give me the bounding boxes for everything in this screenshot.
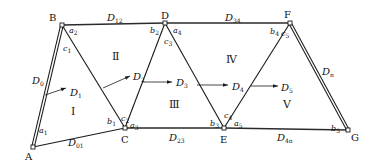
member-EF bbox=[224, 23, 290, 128]
arrow-label-D3: D3 bbox=[175, 77, 188, 89]
node-C bbox=[123, 126, 127, 130]
member-label-D23: D23 bbox=[168, 132, 185, 144]
member-FG-inner bbox=[290, 23, 348, 130]
member-BD bbox=[62, 23, 165, 25]
node-label-F: F bbox=[284, 9, 291, 20]
angle-b2: b2 bbox=[150, 26, 159, 36]
member-CD bbox=[125, 23, 165, 128]
node-E bbox=[222, 126, 226, 130]
node-label-C: C bbox=[121, 134, 129, 145]
angle-a2: a2 bbox=[69, 26, 78, 36]
region-label-3: Ⅲ bbox=[169, 98, 180, 111]
region-label-1: Ⅰ bbox=[71, 105, 75, 118]
node-B bbox=[60, 23, 64, 27]
arrowhead-D1 bbox=[61, 88, 66, 91]
angle-a5: a5 bbox=[234, 119, 243, 129]
angle-a3: a3 bbox=[130, 121, 139, 131]
angle-c1: c1 bbox=[63, 44, 71, 54]
angle-a4: a4 bbox=[173, 26, 182, 36]
arrowhead-D5 bbox=[273, 84, 278, 88]
labels-layer: A B C D E F G D0 D12 D34 Dn D01 D23 D4n … bbox=[24, 9, 359, 162]
arrow-label-D4: D4 bbox=[231, 81, 244, 93]
member-label-Dn: Dn bbox=[321, 66, 334, 78]
node-label-A: A bbox=[24, 151, 33, 162]
angle-c5: c5 bbox=[281, 29, 289, 39]
member-DE bbox=[165, 23, 224, 128]
region-label-4: Ⅳ bbox=[226, 53, 238, 66]
angle-c2: c2 bbox=[121, 114, 129, 124]
arrow-label-D2: D2 bbox=[132, 71, 145, 83]
node-G bbox=[346, 128, 350, 132]
member-label-D01: D01 bbox=[67, 137, 84, 149]
node-label-D: D bbox=[161, 10, 169, 21]
node-A bbox=[31, 145, 35, 149]
angle-b5: b5 bbox=[331, 124, 340, 134]
arrow-label-D5: D5 bbox=[280, 82, 293, 94]
members-layer bbox=[33, 23, 348, 147]
node-label-B: B bbox=[49, 12, 56, 23]
region-label-2: Ⅱ bbox=[112, 50, 119, 63]
region-label-5: Ⅴ bbox=[282, 98, 292, 111]
node-label-G: G bbox=[351, 132, 359, 143]
arrow-label-D1: D1 bbox=[69, 87, 82, 99]
arrowhead-D2 bbox=[125, 76, 130, 80]
angle-b4: b4 bbox=[270, 27, 279, 37]
arrowhead-D4 bbox=[223, 83, 228, 87]
node-F bbox=[288, 21, 292, 25]
angle-c3: c3 bbox=[164, 37, 172, 47]
angle-c4: c4 bbox=[224, 111, 232, 121]
node-label-E: E bbox=[220, 134, 227, 145]
member-label-D4n: D4n bbox=[276, 132, 293, 144]
arrowhead-D3 bbox=[167, 80, 172, 84]
member-label-D12: D12 bbox=[106, 12, 123, 24]
angle-b3: b3 bbox=[210, 119, 219, 129]
angle-b1: b1 bbox=[107, 117, 116, 127]
angle-a1: a1 bbox=[39, 126, 48, 136]
node-D bbox=[163, 21, 167, 25]
member-label-D0: D0 bbox=[31, 75, 44, 87]
truss-diagram: A B C D E F G D0 D12 D34 Dn D01 D23 D4n … bbox=[0, 0, 376, 165]
member-label-D34: D34 bbox=[224, 12, 241, 24]
